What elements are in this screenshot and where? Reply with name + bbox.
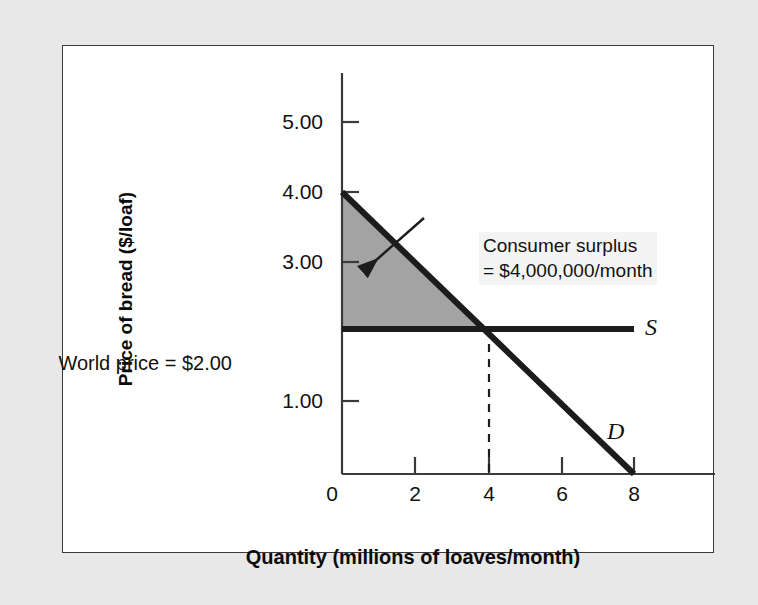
consumer-surplus-annotation-line2: = $4,000,000/month: [483, 259, 653, 284]
x-tick-label-6: 6: [542, 482, 582, 506]
x-axis-title: Quantity (millions of loaves/month): [183, 546, 643, 569]
consumer-surplus-annotation: Consumer surplus = $4,000,000/month: [479, 232, 657, 285]
x-tick-label-0: 0: [312, 482, 352, 506]
demand-curve-label: D: [607, 418, 624, 445]
x-tick-label-4: 4: [469, 482, 509, 506]
consumer-surplus-annotation-line1: Consumer surplus: [483, 234, 653, 259]
supply-curve-label: S: [645, 314, 657, 341]
chart-plot-area: [63, 46, 715, 554]
y-tick-label-1: 1.00: [203, 389, 323, 413]
figure-frame: 5.00 4.00 3.00 1.00 0 2 4 6 8 Price of b…: [62, 45, 714, 553]
y-axis-title: Price of bread ($/loaf): [115, 164, 137, 414]
y-tick-label-3: 3.00: [203, 250, 323, 274]
y-tick-label-4: 4.00: [203, 180, 323, 204]
x-tick-label-2: 2: [395, 482, 435, 506]
x-tick-label-8: 8: [614, 482, 654, 506]
y-tick-label-5: 5.00: [203, 110, 323, 134]
world-price-label: World price = $2.00: [58, 352, 232, 375]
